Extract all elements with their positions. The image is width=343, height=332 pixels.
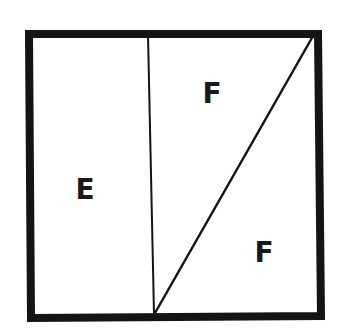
region-label-upper-triangle: F: [202, 77, 221, 110]
region-label-left-rectangle: E: [75, 173, 94, 206]
partitioned-square-diagram: E F F: [0, 0, 343, 332]
region-label-lower-triangle: F: [254, 236, 273, 269]
